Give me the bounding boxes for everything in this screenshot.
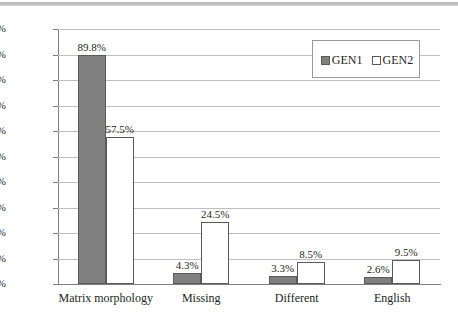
bar-value-label: 24.5%: [191, 208, 239, 220]
bar-value-label: 3.3%: [259, 262, 307, 274]
y-axis-tick-label: 30.0%: [0, 202, 6, 213]
y-axis-tick-label: 20.0%: [0, 227, 6, 238]
bar-gen1-3: [364, 277, 392, 284]
gridline: [58, 106, 440, 107]
legend-label: GEN1: [332, 53, 363, 68]
y-axis-tick-label: 40.0%: [0, 176, 6, 187]
chart-figure: 100.0%90.0%80.0%70.0%60.0%50.0%40.0%30.0…: [0, 0, 458, 333]
scan-artifact-line: [0, 5, 458, 6]
y-axis-tick-label: 80.0%: [0, 74, 6, 85]
legend-entry-gen1: GEN1: [321, 53, 363, 68]
y-axis-tick-label: 50.0%: [0, 151, 6, 162]
y-axis-tick-label: 10.0%: [0, 253, 6, 264]
category-label: English: [345, 291, 441, 305]
bar-gen1-1: [173, 273, 201, 284]
y-axis-tick-label: 100.0%: [0, 23, 6, 34]
legend-label: GEN2: [383, 53, 414, 68]
x-axis-line: [58, 284, 441, 285]
bar-value-label: 57.5%: [96, 123, 144, 135]
bar-gen1-0: [78, 55, 106, 284]
empty-white-square-icon: [372, 56, 381, 65]
legend-box: GEN1GEN2: [312, 40, 420, 78]
bar-value-label: 8.5%: [287, 248, 335, 260]
bar-gen2-0: [106, 137, 134, 284]
bar-gen1-2: [269, 276, 297, 284]
legend-entries: GEN1GEN2: [313, 41, 421, 79]
bar-gen2-1: [201, 222, 229, 284]
category-label: Missing: [154, 291, 250, 305]
y-axis-tick-label: 90.0%: [0, 49, 6, 60]
y-axis-tick-label: 70.0%: [0, 100, 6, 111]
category-label: Matrix morphology: [58, 291, 154, 305]
bar-value-label: 2.6%: [354, 263, 402, 275]
y-axis-tick-label: 0.0%: [0, 278, 6, 289]
gridline: [58, 80, 440, 81]
bar-value-label: 4.3%: [163, 259, 211, 271]
legend-entry-gen2: GEN2: [372, 53, 414, 68]
y-axis-tick-label: 60.0%: [0, 125, 6, 136]
category-label: Different: [249, 291, 345, 305]
bar-value-label: 9.5%: [382, 246, 430, 258]
gridline: [58, 29, 440, 30]
bar-value-label: 89.8%: [68, 41, 116, 53]
filled-gray-square-icon: [321, 56, 330, 65]
